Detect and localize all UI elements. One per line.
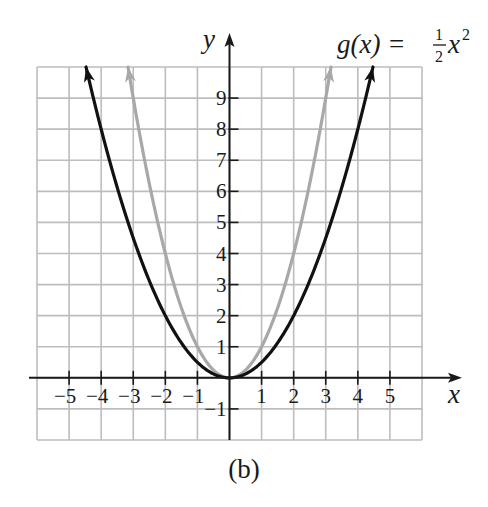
x-tick-label: −1 (182, 384, 204, 408)
y-tick-label: 5 (216, 210, 227, 234)
x-tick-label: 5 (385, 384, 396, 408)
y-tick-label: 6 (216, 179, 227, 203)
fraction-denominator: 2 (435, 48, 443, 65)
x-tick-label: −2 (150, 384, 172, 408)
y-tick-label: 8 (216, 117, 227, 141)
y-tick-label: 4 (216, 242, 227, 266)
y-tick-label: 9 (216, 86, 227, 110)
y-tick-label: −1 (204, 397, 226, 421)
y-axis-label: y (200, 24, 215, 54)
function-label: g(x) = 1 2 x 2 (337, 26, 470, 65)
x-tick-label: −3 (118, 384, 140, 408)
y-tick-label: 1 (216, 335, 227, 359)
y-tick-label: 3 (216, 273, 227, 297)
y-tick-label: 7 (216, 148, 227, 172)
function-label-lhs: g(x) = (337, 29, 405, 59)
function-label-var: x (447, 29, 460, 59)
x-tick-label: 3 (321, 384, 332, 408)
y-tick-label: 2 (216, 304, 227, 328)
x-axis-label: x (447, 379, 460, 409)
x-tick-label: −5 (54, 384, 76, 408)
figure-caption: (b) (0, 454, 488, 485)
function-label-exponent: 2 (462, 26, 470, 43)
fraction-numerator: 1 (435, 26, 443, 43)
plot-area: −5−4−3−2−112345−1123456789 y x g(x) = 1 … (0, 0, 488, 507)
parabola-figure: −5−4−3−2−112345−1123456789 y x g(x) = 1 … (0, 0, 488, 507)
x-tick-label: 1 (256, 384, 267, 408)
x-tick-label: −4 (86, 384, 109, 408)
x-tick-label: 4 (353, 384, 364, 408)
x-tick-label: 2 (288, 384, 299, 408)
